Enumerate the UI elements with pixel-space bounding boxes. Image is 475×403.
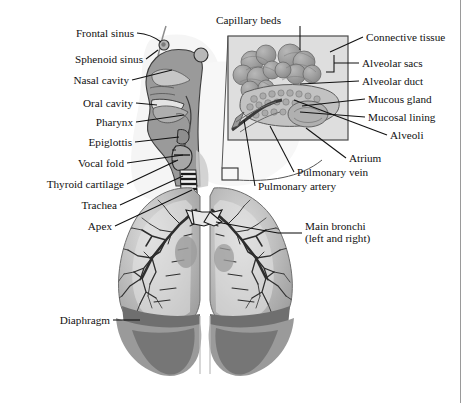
label-alveoli: Alveoli: [390, 129, 424, 141]
label-apex: Apex: [88, 220, 112, 232]
lungs: [114, 188, 294, 332]
label-main-bronchi: Main bronchi (left and right): [305, 221, 370, 245]
label-trachea: Trachea: [81, 199, 117, 211]
label-diaphragm: Diaphragm: [60, 314, 110, 326]
label-atrium: Atrium: [349, 152, 381, 164]
label-vocal-fold: Vocal fold: [78, 157, 124, 169]
label-sphenoid-sinus: Sphenoid sinus: [75, 53, 143, 65]
label-pharynx: Pharynx: [96, 116, 133, 128]
label-nasal-cavity: Nasal cavity: [73, 74, 129, 86]
label-mucous-gland: Mucous gland: [368, 93, 432, 105]
label-oral-cavity: Oral cavity: [83, 97, 133, 109]
main-bronchi-shape: [186, 210, 222, 226]
label-alveolar-sacs: Alveolar sacs: [362, 57, 423, 69]
sphenoid-sinus-shape: [194, 48, 208, 62]
label-pulmonary-vein: Pulmonary vein: [297, 166, 368, 178]
label-capillary-beds: Capillary beds: [216, 14, 281, 26]
label-alveolar-duct: Alveolar duct: [362, 75, 423, 87]
label-epiglottis: Epiglottis: [88, 136, 132, 148]
page-border-rule: [460, 0, 461, 403]
label-frontal-sinus: Frontal sinus: [76, 27, 134, 39]
label-connective-tissue: Connective tissue: [366, 31, 445, 43]
label-main-bronchi-line2: (left and right): [305, 233, 370, 245]
label-pulmonary-artery: Pulmonary artery: [258, 180, 336, 192]
label-main-bronchi-line1: Main bronchi: [305, 221, 370, 233]
diaphragm-band: [116, 306, 294, 376]
respiratory-system-figure: Frontal sinus Sphenoid sinus Nasal cavit…: [0, 0, 475, 403]
label-mucosal-lining: Mucosal lining: [368, 111, 435, 123]
label-thyroid-cartilage: Thyroid cartilage: [47, 178, 124, 190]
